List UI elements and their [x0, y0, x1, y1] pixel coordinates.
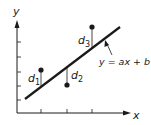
residual-label-d3: d3: [78, 35, 90, 49]
y-ticks: [17, 42, 21, 100]
equation-pointer: [107, 44, 112, 55]
data-point-2: [64, 82, 69, 87]
y-axis-label: y: [13, 6, 20, 17]
residual-label-d1: d1: [28, 73, 40, 87]
x-axis-label: x: [133, 110, 140, 121]
x-ticks: [41, 109, 92, 113]
residual-label-d2: d2: [71, 70, 83, 84]
data-point-3: [89, 24, 94, 29]
y-axis-arrow-icon: [15, 20, 20, 28]
residual-label-index: 1: [35, 78, 40, 87]
residual-label-name: d: [78, 34, 85, 47]
residual-label-index: 3: [85, 40, 90, 49]
data-point-1: [38, 67, 43, 72]
residual-label-name: d: [28, 72, 35, 85]
residual-label-index: 2: [78, 75, 83, 84]
line-equation: y = ax + b: [99, 57, 150, 67]
x-axis-arrow-icon: [123, 111, 131, 116]
residual-label-name: d: [71, 69, 78, 82]
